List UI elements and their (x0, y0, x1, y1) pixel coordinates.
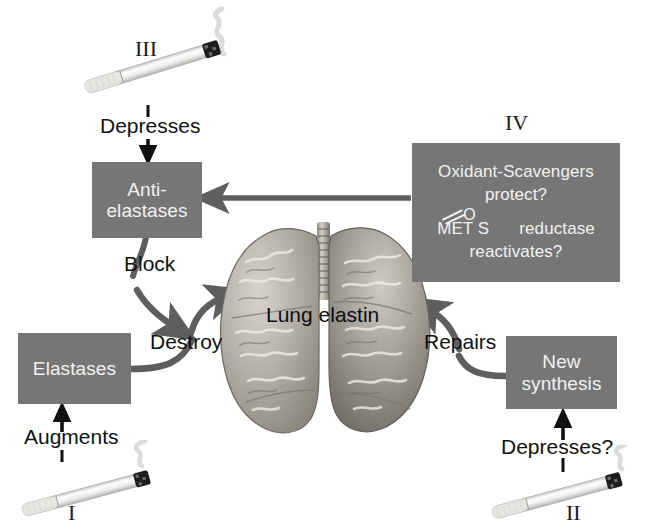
box-elastases-label: Elastases (18, 358, 131, 379)
label-destroy: Destroy (150, 330, 222, 354)
box-elastases[interactable]: Elastases (18, 333, 131, 404)
box-oxidant-line3-post: reductase (519, 219, 595, 238)
box-new-synthesis-line2: synthesis (521, 373, 601, 394)
numeral-ii: II (566, 500, 581, 526)
label-depresses-bottom: Depresses? (501, 435, 613, 459)
cigarette-iii (60, 6, 260, 106)
box-anti-elastases-line1: Anti- (127, 179, 167, 200)
box-anti-elastases-line2: elastases (106, 200, 187, 221)
box-new-synthesis[interactable]: New synthesis (506, 336, 617, 409)
label-block: Block (124, 252, 175, 276)
label-depresses-top: Depresses (100, 114, 200, 138)
box-anti-elastases[interactable]: Anti- elastases (92, 162, 202, 238)
label-repairs: Repairs (424, 330, 496, 354)
box-oxidant-line2: protect? (485, 185, 547, 204)
numeral-iv: IV (505, 110, 528, 136)
cigarette-i (8, 440, 190, 526)
label-lung-elastin: Lung elastin (266, 303, 379, 327)
met-sulfoxide-formula: MET SO (437, 218, 519, 241)
numeral-iii: III (135, 36, 157, 62)
smoke-wisp (616, 445, 625, 469)
label-augments: Augments (24, 425, 119, 449)
box-new-synthesis-line1: New (542, 351, 580, 372)
smoke-wisp (136, 441, 145, 466)
box-oxidant-scavengers[interactable]: Oxidant-Scavengers protect? MET SOreduct… (412, 143, 620, 282)
box-oxidant-line1: Oxidant-Scavengers (438, 162, 594, 181)
double-bond-icon (442, 219, 463, 228)
numeral-i: I (68, 500, 75, 526)
cigarette-body (491, 472, 623, 520)
box-oxidant-line4: reactivates? (470, 242, 563, 261)
diagram-canvas: Anti- elastases Elastases New synthesis … (0, 0, 646, 526)
cigarette-body (21, 470, 151, 518)
